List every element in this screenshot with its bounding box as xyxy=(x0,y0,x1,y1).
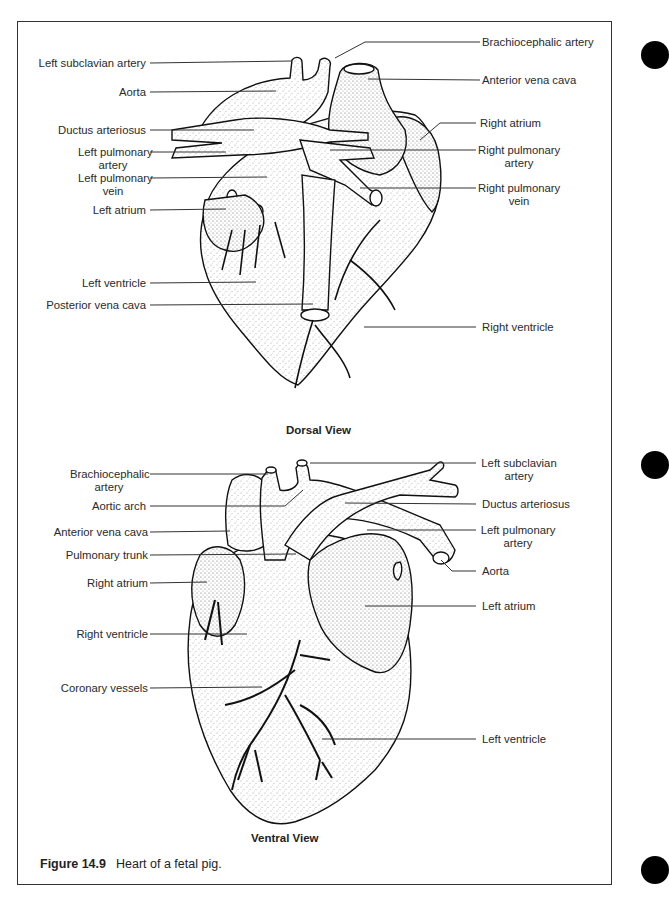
label-line: Left pulmonary xyxy=(78,172,148,185)
label-ventral-left-atrium: Left atrium xyxy=(482,600,535,613)
label-line: artery xyxy=(480,470,558,483)
label-line: Brachiocephalic xyxy=(70,468,148,481)
dorsal-heart-drawing xyxy=(172,57,441,388)
label-dorsal-left-atrium: Left atrium xyxy=(93,204,146,217)
label-ventral-aorta: Aorta xyxy=(482,565,509,578)
label-ventral-brachiocephalic-artery: Brachiocephalic artery xyxy=(70,468,148,494)
label-line: Right pulmonary xyxy=(478,144,560,157)
label-dorsal-right-atrium: Right atrium xyxy=(480,117,541,130)
label-line: Left pulmonary xyxy=(78,146,148,159)
dorsal-view-title: Dorsal View xyxy=(286,424,351,436)
label-ventral-right-ventricle: Right ventricle xyxy=(76,628,148,641)
label-line: Left subclavian xyxy=(480,457,558,470)
label-line: vein xyxy=(78,185,148,198)
label-dorsal-brachiocephalic-artery: Brachiocephalic artery xyxy=(482,36,594,49)
label-ventral-coronary-vessels: Coronary vessels xyxy=(61,682,148,695)
label-dorsal-posterior-vena-cava: Posterior vena cava xyxy=(46,299,146,312)
label-line: vein xyxy=(478,195,560,208)
figure-number: Figure 14.9 xyxy=(40,857,106,871)
label-dorsal-aorta: Aorta xyxy=(119,86,146,99)
label-dorsal-left-ventricle: Left ventricle xyxy=(82,277,146,290)
label-dorsal-left-pulmonary-artery: Left pulmonary artery xyxy=(78,146,148,172)
label-dorsal-ductus-arteriosus: Ductus arteriosus xyxy=(58,124,146,137)
figure-caption: Figure 14.9Heart of a fetal pig. xyxy=(40,857,222,871)
label-dorsal-anterior-vena-cava: Anterior vena cava xyxy=(482,74,576,87)
label-dorsal-right-pulmonary-artery: Right pulmonary artery xyxy=(478,144,560,170)
ventral-view-title: Ventral View xyxy=(251,832,319,844)
label-ventral-left-pulmonary-artery: Left pulmonary artery xyxy=(480,524,556,550)
label-dorsal-left-subclavian-artery: Left subclavian artery xyxy=(39,57,146,70)
label-ventral-aortic-arch: Aortic arch xyxy=(92,500,146,513)
figure-caption-text: Heart of a fetal pig. xyxy=(116,857,222,871)
label-line: Left pulmonary xyxy=(480,524,556,537)
label-dorsal-right-ventricle: Right ventricle xyxy=(482,321,554,334)
label-line: artery xyxy=(480,537,556,550)
label-ventral-right-atrium: Right atrium xyxy=(87,577,148,590)
ventral-heart-drawing xyxy=(188,460,458,824)
label-ventral-pulmonary-trunk: Pulmonary trunk xyxy=(66,549,148,562)
label-line: artery xyxy=(78,159,148,172)
label-dorsal-left-pulmonary-vein: Left pulmonary vein xyxy=(78,172,148,198)
label-line: artery xyxy=(478,157,560,170)
label-dorsal-right-pulmonary-vein: Right pulmonary vein xyxy=(478,182,560,208)
label-line: Right pulmonary xyxy=(478,182,560,195)
label-ventral-left-subclavian-artery: Left subclavian artery xyxy=(480,457,558,483)
label-ventral-left-ventricle: Left ventricle xyxy=(482,733,546,746)
label-ventral-anterior-vena-cava: Anterior vena cava xyxy=(54,526,148,539)
label-ventral-ductus-arteriosus: Ductus arteriosus xyxy=(482,498,570,511)
label-line: artery xyxy=(70,481,148,494)
